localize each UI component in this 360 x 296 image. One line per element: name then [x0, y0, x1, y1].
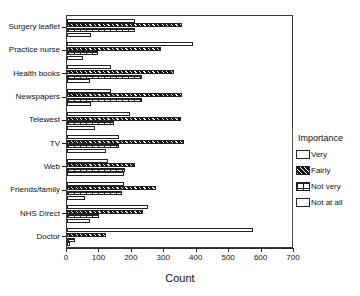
bar-practice-nurse-very: [67, 42, 292, 46]
bar-telewest-fairly: [67, 117, 292, 121]
bar-segment: [67, 214, 99, 218]
plot-area: [66, 15, 293, 248]
category-label: Surgery leaflet: [0, 22, 60, 31]
bar-practice-nurse-not-at-all: [67, 56, 292, 60]
legend-swatch-icon: [296, 198, 310, 207]
x-tick: [293, 248, 294, 252]
legend-item-very[interactable]: Very: [296, 150, 360, 159]
category-label: Practice nurse: [0, 45, 60, 54]
bar-doctor-not-very: [67, 238, 292, 242]
bar-nhs-direct-fairly: [67, 210, 292, 214]
category-label: Friends/family: [0, 185, 60, 194]
legend-item-fairly[interactable]: Fairly: [296, 166, 360, 175]
bar-doctor-not-at-all: [67, 242, 292, 246]
bar-segment: [67, 98, 142, 102]
bar-segment: [67, 135, 119, 139]
bar-surgery-leaflet-very: [67, 19, 292, 23]
bar-segment: [67, 93, 182, 97]
bar-segment: [67, 210, 143, 214]
bar-segment: [67, 56, 83, 60]
bar-telewest-not-at-all: [67, 126, 292, 130]
legend-label: Fairly: [311, 166, 331, 175]
bar-health-books-not-at-all: [67, 79, 292, 83]
legend-label: Not at all: [311, 198, 343, 207]
bar-segment: [67, 205, 148, 209]
bar-segment: [67, 242, 70, 246]
bar-segment: [67, 163, 135, 167]
category-label: TV: [0, 139, 60, 148]
bar-segment: [67, 75, 142, 79]
bar-segment: [67, 219, 90, 223]
bar-web-not-at-all: [67, 172, 292, 176]
bar-segment: [67, 196, 85, 200]
x-axis-title: Count: [0, 272, 360, 284]
bar-nhs-direct-not-at-all: [67, 219, 292, 223]
bar-segment: [67, 121, 114, 125]
bar-friends-family-very: [67, 182, 292, 186]
bar-tv-not-at-all: [67, 149, 292, 153]
x-tick-label: 300: [157, 253, 170, 262]
bar-segment: [67, 228, 253, 232]
bar-tv-not-very: [67, 144, 292, 148]
bar-tv-fairly: [67, 140, 292, 144]
bar-telewest-not-very: [67, 121, 292, 125]
x-tick: [66, 248, 67, 252]
bar-health-books-very: [67, 65, 292, 69]
x-tick-label: 200: [124, 253, 137, 262]
legend-item-not-very[interactable]: Not very: [296, 182, 360, 191]
bar-friends-family-fairly: [67, 186, 292, 190]
bar-practice-nurse-not-very: [67, 51, 292, 55]
bars-container: [67, 16, 292, 247]
bar-segment: [67, 51, 98, 55]
x-tick: [98, 248, 99, 252]
legend-item-not-at-all[interactable]: Not at all: [296, 198, 360, 207]
bar-newspapers-not-very: [67, 98, 292, 102]
bar-segment: [67, 172, 124, 176]
category-label: Doctor: [0, 232, 60, 241]
bar-segment: [67, 233, 106, 237]
bar-web-fairly: [67, 163, 292, 167]
bar-tv-very: [67, 135, 292, 139]
bar-nhs-direct-not-very: [67, 214, 292, 218]
bar-segment: [67, 168, 125, 172]
bar-doctor-very: [67, 228, 292, 232]
bar-nhs-direct-very: [67, 205, 292, 209]
bar-segment: [67, 89, 111, 93]
legend-divider: [292, 130, 293, 242]
bar-surgery-leaflet-not-at-all: [67, 33, 292, 37]
x-tick-label: 600: [254, 253, 267, 262]
bar-segment: [67, 79, 90, 83]
bar-friends-family-not-very: [67, 191, 292, 195]
bar-surgery-leaflet-fairly: [67, 23, 292, 27]
bar-practice-nurse-fairly: [67, 47, 292, 51]
bar-segment: [67, 117, 181, 121]
bar-web-very: [67, 159, 292, 163]
bar-telewest-very: [67, 112, 292, 116]
bar-segment: [67, 159, 108, 163]
bar-newspapers-not-at-all: [67, 102, 292, 106]
category-label: Newspapers: [0, 92, 60, 101]
legend-label: Very: [311, 150, 327, 159]
legend-title: Importance: [298, 133, 360, 143]
bar-surgery-leaflet-not-very: [67, 28, 292, 32]
bar-segment: [67, 42, 193, 46]
bar-health-books-not-very: [67, 75, 292, 79]
category-label: NHS Direct: [0, 209, 60, 218]
bar-newspapers-fairly: [67, 93, 292, 97]
bar-segment: [67, 47, 161, 51]
x-tick-label: 100: [92, 253, 105, 262]
legend-items: VeryFairlyNot veryNot at all: [296, 150, 360, 207]
legend-label: Not very: [311, 182, 341, 191]
bar-segment: [67, 102, 91, 106]
bar-segment: [67, 144, 119, 148]
x-tick-label: 500: [221, 253, 234, 262]
bar-doctor-fairly: [67, 233, 292, 237]
x-tick: [228, 248, 229, 252]
bar-segment: [67, 238, 75, 242]
bar-segment: [67, 149, 106, 153]
bar-segment: [67, 28, 135, 32]
bar-segment: [67, 126, 95, 130]
x-tick: [131, 248, 132, 252]
x-axis-line: [66, 248, 293, 249]
legend-swatch-icon: [296, 182, 310, 191]
